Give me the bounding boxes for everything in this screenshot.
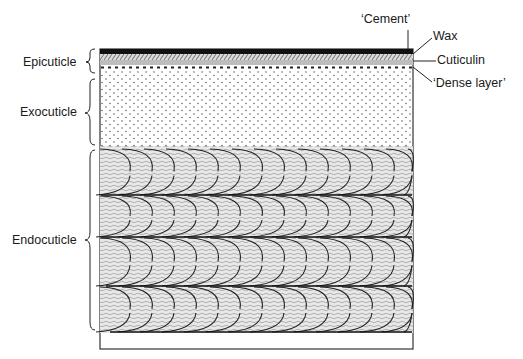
endocuticle-layer	[100, 146, 413, 333]
wax-layer	[100, 54, 413, 60]
endocuticle-brace	[85, 150, 95, 330]
label-wax: Wax	[433, 29, 458, 43]
label-exocuticle: Exocuticle	[20, 105, 77, 119]
label-epicuticle: Epicuticle	[23, 55, 77, 69]
label-endocuticle: Endocuticle	[12, 233, 77, 247]
label-cuticulin: Cuticulin	[437, 53, 485, 67]
label-cement: ‘Cement’	[361, 12, 410, 26]
epicuticle-brace	[86, 49, 95, 73]
exocuticle-layer	[100, 70, 413, 146]
label-dense-layer: ‘Dense layer’	[433, 76, 506, 90]
cement-layer	[100, 49, 413, 54]
exocuticle-brace	[85, 79, 95, 145]
cuticulin-layer	[100, 60, 413, 65]
